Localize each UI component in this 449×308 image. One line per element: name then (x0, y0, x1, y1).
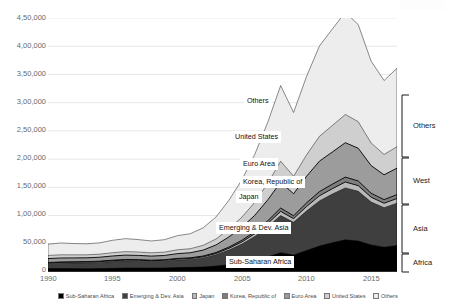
legend-item[interactable]: United States (324, 293, 365, 300)
x-tick-2000: 2000 (169, 274, 186, 283)
y-tick-300000: 3,00,000 (2, 98, 46, 106)
group-brackets: Others West Asia Africa (398, 18, 449, 274)
y-tick-350000: 3,50,000 (2, 70, 46, 78)
area-series-group (48, 18, 397, 272)
chart-page: 4,50,000 4,00,000 3,50,000 3,00,000 2,50… (0, 0, 449, 308)
plot-area: Others United States Euro Area Korea, Re… (48, 18, 397, 272)
legend-item[interactable]: Sub-Saharan Africa (58, 293, 114, 300)
legend-item-label: Sub-Saharan Africa (66, 293, 115, 300)
legend-item[interactable]: Others (373, 293, 397, 300)
x-tick-2015: 2015 (363, 274, 380, 283)
legend-item-label: United States (332, 293, 366, 300)
legend-item[interactable]: Euro Area (284, 293, 316, 300)
legend-swatch-icon (284, 293, 290, 299)
legend-swatch-icon (373, 293, 379, 299)
y-axis: 4,50,000 4,00,000 3,50,000 3,00,000 2,50… (0, 0, 46, 290)
page-corner-artifact (399, 1, 445, 10)
y-tick-400000: 4,00,000 (2, 42, 46, 50)
callout-japan: Japan (236, 191, 262, 203)
callout-united-states: United States (232, 131, 281, 143)
legend-item[interactable]: Emerging & Dev. Asia (122, 293, 184, 300)
y-tick-50000: 50,000 (2, 238, 46, 246)
legend-item-label: Japan (199, 293, 214, 300)
legend-swatch-icon (122, 293, 128, 299)
legend-item-label: Emerging & Dev. Asia (130, 293, 184, 300)
callout-korea: Korea, Republic of (240, 176, 305, 188)
bracket-label-africa: Africa (413, 258, 432, 267)
bracket-label-others: Others (413, 121, 436, 130)
y-tick-450000: 4,50,000 (2, 14, 46, 22)
legend-item-label: Korea, Republic of (230, 293, 276, 300)
legend-swatch-icon (222, 293, 228, 299)
callout-emerging-dev-asia: Emerging & Dev. Asia (216, 222, 291, 234)
x-tick-1990: 1990 (40, 274, 57, 283)
legend-item-label: Euro Area (292, 293, 317, 300)
stacked-area-chart (48, 18, 397, 272)
legend-swatch-icon (192, 293, 198, 299)
legend-item[interactable]: Korea, Republic of (222, 293, 276, 300)
chart-legend: Sub-Saharan AfricaEmerging & Dev. AsiaJa… (48, 290, 408, 302)
bracket-label-west: West (413, 176, 430, 185)
x-axis: 1990 1995 2000 2005 2010 2015 (48, 274, 400, 286)
legend-item-label: Others (381, 293, 398, 300)
y-tick-250000: 2,50,000 (2, 126, 46, 134)
y-tick-200000: 2,00,000 (2, 154, 46, 162)
y-tick-150000: 1,50,000 (2, 182, 46, 190)
bracket-label-asia: Asia (413, 224, 428, 233)
callout-others: Others (244, 95, 272, 107)
x-tick-1995: 1995 (104, 274, 121, 283)
x-tick-2005: 2005 (234, 274, 251, 283)
legend-swatch-icon (324, 293, 330, 299)
bracket-lines (398, 18, 449, 274)
callout-sub-saharan-africa: Sub-Saharan Africa (226, 256, 294, 268)
x-tick-2010: 2010 (298, 274, 315, 283)
y-tick-100000: 1,00,000 (2, 210, 46, 218)
y-tick-0: 0 (2, 266, 46, 274)
legend-item[interactable]: Japan (192, 293, 215, 300)
callout-euro-area: Euro Area (240, 158, 278, 170)
legend-swatch-icon (58, 293, 64, 299)
